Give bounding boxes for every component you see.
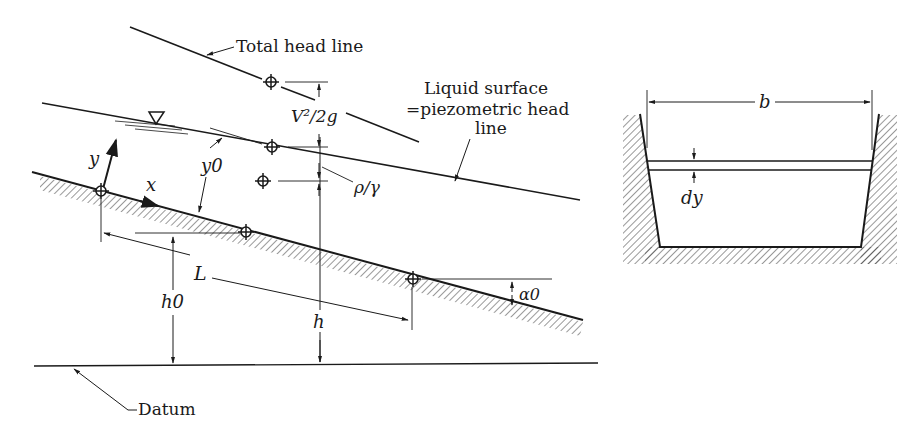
channel-cross-section: b dy	[623, 90, 897, 264]
floor-hatching	[645, 247, 881, 264]
depth-label: y0	[200, 155, 223, 176]
y-axis-label: y	[88, 148, 100, 169]
strip-thickness-label: dy	[681, 187, 704, 208]
liquid-surface-label-3: line	[475, 118, 507, 138]
crosshair-circle-icon	[263, 74, 279, 90]
left-wall-hatching	[623, 115, 660, 264]
total-head-label: Total head line	[236, 36, 363, 56]
slope-angle-label: α0	[519, 285, 540, 304]
y0-line-bottom	[199, 177, 206, 212]
channel-bed-hatching	[40, 176, 583, 336]
open-channel-diagram: Total head line Liquid surface =piezomet…	[0, 0, 917, 433]
head-label: h	[313, 311, 325, 332]
y0-line-top	[210, 138, 222, 148]
L-arrow-left	[104, 233, 190, 255]
bed-height-label: h0	[161, 291, 184, 312]
velocity-head-label: V²/2g	[291, 106, 338, 126]
datum-line	[34, 363, 598, 366]
width-label: b	[759, 91, 771, 112]
pressure-leader	[322, 167, 353, 182]
right-wall-hatching	[860, 115, 897, 264]
L-arrow-right	[212, 278, 408, 320]
channel-profile: Total head line Liquid surface =piezomet…	[32, 27, 598, 419]
y-axis-arrow	[103, 140, 116, 189]
crosshair-circle-icon	[255, 173, 271, 189]
liquid-surface-label-1: Liquid surface	[424, 78, 548, 98]
datum-label: Datum	[138, 399, 196, 419]
length-label: L	[193, 262, 207, 284]
liquid-surface-leader	[455, 139, 470, 181]
total-head-leader	[207, 47, 234, 55]
total-head-line-continued	[281, 87, 315, 100]
datum-leader	[74, 369, 137, 410]
channel-bed-line	[32, 172, 583, 320]
pressure-head-label: ρ/γ	[353, 177, 381, 197]
channel-section-outline	[640, 114, 879, 247]
liquid-surface-label-2: =piezometric head	[406, 99, 569, 119]
crosshair-circle-icon	[264, 139, 280, 155]
x-axis-label: x	[146, 174, 156, 195]
